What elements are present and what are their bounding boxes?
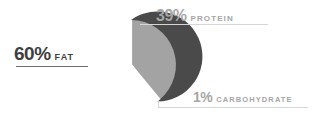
callout-carbohydrate-category: CARBOHYDRATE [216,96,292,104]
callout-protein-percent: 39% [156,8,187,24]
callout-carbohydrate[interactable]: 1% CARBOHYDRATE [193,90,293,104]
callout-fat[interactable]: 60% FAT [14,44,74,63]
callout-carbohydrate-percent: 1% [193,90,212,104]
pie-chart-figure: 60% FAT 39% PROTEIN 1% CARBOHYDRATE [0,0,316,118]
callout-protein[interactable]: 39% PROTEIN [156,8,234,24]
callout-fat-category: FAT [55,53,75,62]
callout-protein-category: PROTEIN [191,15,234,23]
callout-fat-percent: 60% [14,44,51,63]
